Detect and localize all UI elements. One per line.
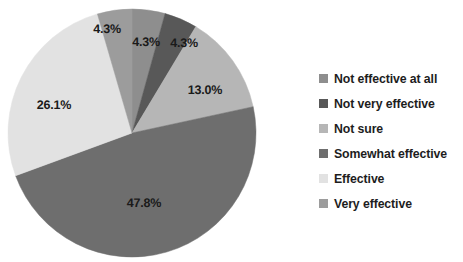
legend-swatch-icon [319, 174, 328, 183]
pie-slice-value-label: 13.0% [188, 83, 222, 97]
chart-legend: Not effective at allNot very effectiveNo… [319, 66, 463, 216]
legend-item[interactable]: Not effective at all [319, 66, 463, 91]
legend-swatch-icon [319, 99, 328, 108]
legend-swatch-icon [319, 74, 328, 83]
pie-slice-value-label: 4.3% [170, 36, 198, 50]
legend-item-label: Very effective [334, 197, 412, 211]
legend-item-label: Not very effective [334, 97, 435, 111]
legend-swatch-icon [319, 149, 328, 158]
legend-item[interactable]: Effective [319, 166, 463, 191]
legend-item[interactable]: Not sure [319, 116, 463, 141]
legend-item[interactable]: Somewhat effective [319, 141, 463, 166]
legend-swatch-icon [319, 199, 328, 208]
pie-slice-value-label: 26.1% [37, 98, 71, 112]
legend-item-label: Not sure [334, 122, 383, 136]
pie-chart-area: 4.3%4.3%13.0%47.8%26.1%4.3% [0, 0, 290, 262]
legend-item-label: Somewhat effective [334, 147, 447, 161]
legend-swatch-icon [319, 124, 328, 133]
legend-item[interactable]: Very effective [319, 191, 463, 216]
pie-slice-value-label: 47.8% [127, 196, 161, 210]
pie-slice-value-label: 4.3% [132, 35, 160, 49]
chart-page: 4.3%4.3%13.0%47.8%26.1%4.3% Not effectiv… [0, 0, 463, 262]
legend-item-label: Effective [334, 172, 384, 186]
legend-item-label: Not effective at all [334, 72, 437, 86]
legend-item[interactable]: Not very effective [319, 91, 463, 116]
pie-slice-value-label: 4.3% [93, 22, 121, 36]
